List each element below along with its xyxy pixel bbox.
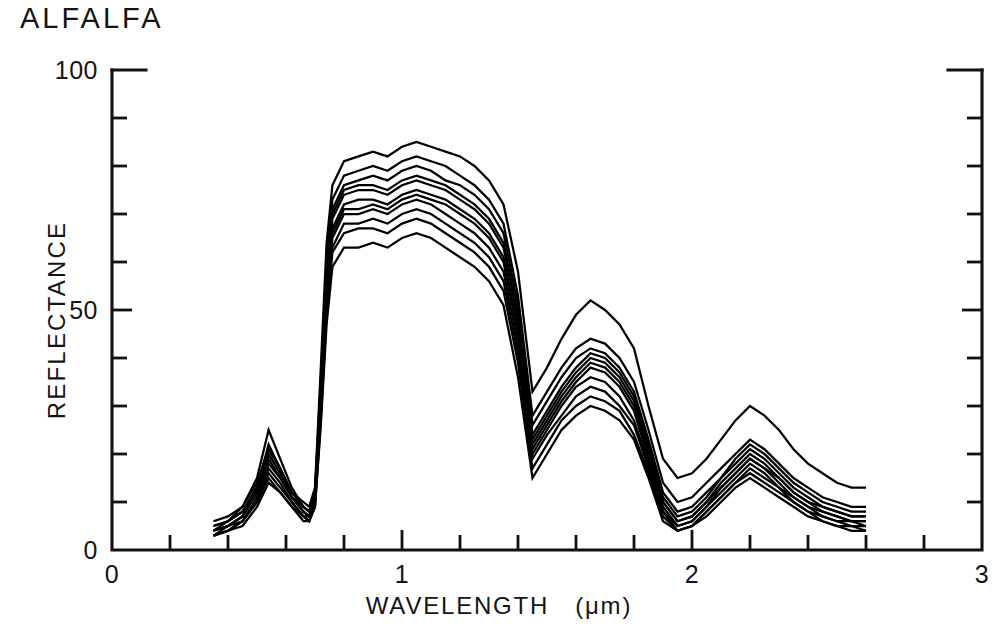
axis-group xyxy=(112,70,982,550)
spectrum-curve xyxy=(214,219,867,536)
spectrum-curve xyxy=(214,209,867,535)
figure-root: ALFALFA REFLECTANCE WAVELENGTH(μm) 05010… xyxy=(0,0,998,636)
axis-spine xyxy=(112,70,982,550)
tick-group xyxy=(112,118,982,550)
spectrum-curve xyxy=(214,233,867,535)
spectral-reflectance-chart xyxy=(0,0,998,636)
curve-group xyxy=(214,142,867,536)
